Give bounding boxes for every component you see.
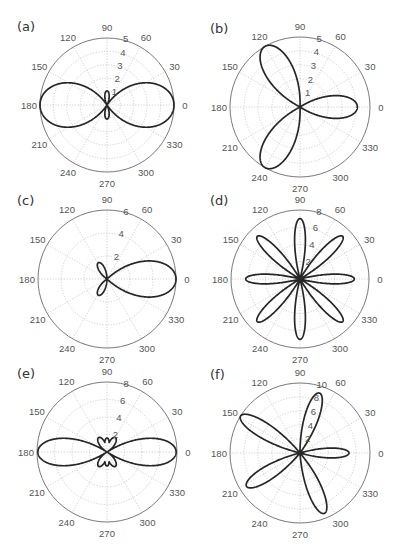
radial-tick-label: 4	[116, 412, 121, 423]
grid-spoke	[107, 219, 142, 279]
angle-tick-label: 180	[19, 274, 35, 285]
radial-tick-label: 2	[305, 433, 310, 444]
grid-spoke	[265, 107, 300, 168]
angle-tick-label: 0	[378, 448, 383, 459]
polar-panel-f: (f)2468100306090120150180210240270300330	[210, 367, 384, 540]
angle-tick-label: 0	[184, 274, 189, 285]
angle-tick-label: 60	[335, 204, 346, 215]
radial-tick-label: 2	[114, 251, 119, 262]
angle-tick-label: 240	[252, 343, 268, 354]
angle-tick-label: 270	[99, 178, 115, 189]
radial-tick-label: 6	[311, 406, 316, 417]
panel-label: (e)	[17, 366, 35, 381]
radial-tick-label: 4	[309, 239, 314, 250]
radial-tick-label: 4	[314, 46, 319, 57]
grid-spoke	[73, 219, 108, 279]
angle-tick-label: 90	[295, 194, 306, 205]
angle-tick-label: 240	[252, 518, 268, 529]
angle-tick-label: 150	[29, 406, 45, 417]
grid-spoke	[265, 392, 300, 453]
polar-panel-a: (a)123450306090120150180210240270300330	[17, 19, 188, 189]
radial-tick-label: 8	[124, 378, 129, 389]
angle-tick-label: 300	[139, 343, 155, 354]
angle-tick-label: 270	[99, 354, 115, 365]
angle-tick-label: 240	[59, 517, 75, 528]
radial-tick-label: 4	[119, 228, 124, 239]
angle-tick-label: 330	[167, 139, 183, 150]
radial-tick-label: 8	[316, 206, 321, 217]
polar-panel-b: (b)123450306090120150180210240270300330	[210, 21, 384, 194]
radial-tick-label: 5	[123, 33, 128, 44]
angle-tick-label: 90	[102, 366, 113, 377]
angle-tick-label: 60	[335, 377, 346, 388]
angle-tick-label: 330	[362, 488, 378, 499]
angle-tick-label: 270	[292, 354, 308, 365]
angle-tick-label: 0	[182, 100, 187, 111]
angle-tick-label: 240	[60, 167, 76, 178]
angle-tick-label: 270	[292, 529, 308, 540]
angle-tick-label: 180	[21, 100, 37, 111]
angle-tick-label: 120	[60, 32, 76, 43]
radial-tick-label: 2	[306, 256, 311, 267]
grid-spoke	[239, 418, 300, 453]
angle-tick-label: 0	[378, 102, 383, 113]
angle-tick-label: 240	[59, 343, 75, 354]
angle-tick-label: 30	[171, 234, 182, 245]
angle-tick-label: 150	[222, 407, 238, 418]
angle-tick-label: 0	[377, 274, 382, 285]
angle-tick-label: 60	[142, 376, 153, 387]
angle-tick-label: 120	[59, 204, 75, 215]
polar-curve	[240, 393, 349, 514]
angle-tick-label: 150	[30, 234, 46, 245]
angle-tick-label: 210	[223, 314, 239, 325]
angle-tick-label: 330	[362, 142, 378, 153]
angle-tick-label: 60	[142, 204, 153, 215]
radial-tick-label: 1	[305, 87, 310, 98]
radial-tick-label: 6	[120, 395, 125, 406]
angle-tick-label: 180	[212, 274, 228, 285]
angle-tick-label: 30	[172, 406, 183, 417]
radial-tick-label: 3	[311, 60, 316, 71]
panel-label: (d)	[210, 193, 228, 208]
angle-tick-label: 180	[211, 448, 227, 459]
radial-tick-label: 3	[117, 60, 122, 71]
angle-tick-label: 90	[295, 367, 306, 378]
angle-tick-label: 120	[252, 31, 268, 42]
grid-spoke	[265, 46, 300, 107]
angle-tick-label: 330	[361, 314, 377, 325]
angle-tick-label: 60	[335, 31, 346, 42]
grid-spoke	[107, 105, 141, 163]
radial-tick-label: 10	[317, 379, 328, 390]
radial-tick-label: 2	[308, 74, 313, 85]
angle-tick-label: 180	[18, 447, 34, 458]
angle-tick-label: 210	[30, 314, 46, 325]
grid-spoke	[47, 245, 107, 280]
grid-spoke	[107, 279, 142, 339]
angle-tick-label: 210	[222, 142, 238, 153]
polar-plot-figure: (a)123450306090120150180210240270300330 …	[0, 0, 399, 553]
angle-tick-label: 300	[333, 518, 349, 529]
radial-tick-label: 6	[313, 222, 318, 233]
radial-tick-label: 8	[314, 392, 319, 403]
grid-spoke	[73, 279, 108, 339]
angle-tick-label: 30	[365, 61, 376, 72]
angle-tick-label: 150	[223, 234, 239, 245]
radial-tick-label: 4	[308, 420, 313, 431]
angle-tick-label: 240	[252, 172, 268, 183]
grid-spoke	[265, 453, 300, 514]
panel-label: (c)	[17, 193, 34, 208]
panel-label: (a)	[17, 19, 35, 34]
angle-tick-label: 90	[295, 21, 306, 32]
polar-curve	[40, 83, 174, 128]
angle-tick-label: 210	[222, 488, 238, 499]
angle-tick-label: 30	[364, 234, 375, 245]
radial-tick-label: 2	[113, 429, 118, 440]
polar-panel-d: (d)24680306090120150180210240270300330	[210, 193, 383, 365]
angle-tick-label: 270	[292, 183, 308, 194]
radial-tick-label: 5	[317, 33, 322, 44]
panel-label: (f)	[210, 367, 225, 382]
angle-tick-label: 300	[140, 517, 156, 528]
angle-tick-label: 120	[59, 376, 75, 387]
grid-spoke	[49, 105, 107, 139]
polar-panel-c: (c)2460306090120150180210240270300330	[17, 193, 190, 365]
